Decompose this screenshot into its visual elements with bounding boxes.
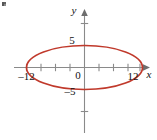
x-tick-label-pos12: 12 bbox=[128, 70, 139, 82]
coordinate-plane-svg: y x –12 0 12 5 –5 bbox=[0, 0, 157, 140]
y-tick-label-pos5: 5 bbox=[69, 34, 75, 46]
y-axis-arrowhead bbox=[81, 9, 88, 16]
y-tick-label-neg5: –5 bbox=[64, 85, 77, 97]
x-axis-label: x bbox=[146, 68, 152, 80]
scan-speck-artifact bbox=[2, 2, 6, 6]
x-tick-label-neg12: –12 bbox=[17, 70, 35, 82]
origin-label: 0 bbox=[75, 69, 81, 81]
y-axis-label: y bbox=[71, 4, 77, 16]
math-figure-ellipse-plot: y x –12 0 12 5 –5 bbox=[0, 0, 157, 140]
